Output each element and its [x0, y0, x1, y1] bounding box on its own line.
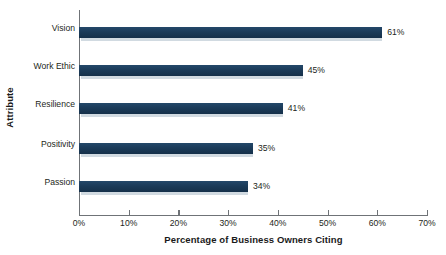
x-axis-tick-label: 70% [418, 219, 435, 228]
y-axis-tick-label: Positivity [18, 140, 75, 149]
bar-shadow [81, 38, 382, 41]
bar[interactable] [79, 27, 382, 38]
bar-value-label: 34% [253, 181, 270, 192]
bar[interactable] [79, 143, 253, 154]
y-axis-tick-labels: Vision Work Ethic Resilience Positivity … [18, 0, 75, 215]
bar-value-label: 45% [308, 65, 325, 76]
bar-value-label: 61% [387, 27, 404, 38]
x-axis-line [79, 215, 428, 216]
bar-value-label: 35% [258, 143, 275, 154]
bar-chart: Attribute Vision Work Ethic Resilience P… [0, 0, 446, 255]
bar[interactable] [79, 103, 283, 114]
bar[interactable] [79, 181, 248, 192]
x-axis-title: Percentage of Business Owners Citing [79, 234, 428, 245]
bar[interactable] [79, 65, 303, 76]
x-axis-tick-label: 60% [369, 219, 386, 228]
x-axis-tick [178, 210, 179, 215]
y-axis-tick-label: Work Ethic [18, 62, 75, 71]
x-axis-tick-label: 20% [170, 219, 187, 228]
bar-value-label: 41% [288, 103, 305, 114]
x-axis-tick [278, 210, 279, 215]
y-axis-tick-label: Resilience [18, 100, 75, 109]
bar-shadow [81, 76, 303, 79]
x-axis-tick [328, 210, 329, 215]
x-axis-tick [129, 210, 130, 215]
y-axis-tick-label: Vision [18, 24, 75, 33]
y-axis-title-text: Attribute [4, 87, 15, 127]
plot-area: 61% 45% 41% 35% 34% [79, 10, 427, 215]
bar-shadow [81, 114, 283, 117]
x-axis-tick-label: 10% [120, 219, 137, 228]
x-axis-tick [377, 210, 378, 215]
x-axis-tick-label: 40% [269, 219, 286, 228]
x-axis-tick [427, 210, 428, 215]
y-axis-title: Attribute [0, 0, 18, 215]
x-axis-tick-label: 30% [220, 219, 237, 228]
x-axis-tick [228, 210, 229, 215]
bar-shadow [81, 192, 248, 195]
x-axis-tick-label: 50% [319, 219, 336, 228]
x-axis-tick-label: 0% [73, 219, 85, 228]
y-axis-tick-label: Passion [18, 178, 75, 187]
bar-shadow [81, 154, 253, 157]
x-axis-tick [79, 210, 80, 215]
